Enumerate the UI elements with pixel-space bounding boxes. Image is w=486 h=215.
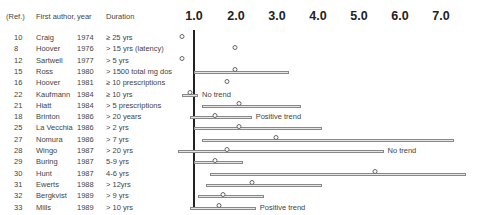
confidence-interval-bar — [194, 161, 243, 164]
point-estimate-marker — [274, 135, 279, 140]
tick-6: 6.0 — [391, 9, 408, 23]
point-estimate-marker — [179, 56, 184, 61]
author-cell: La Vecchia — [36, 122, 73, 133]
ref-cell: 31 — [14, 179, 22, 190]
point-estimate-marker — [212, 158, 217, 163]
point-estimate-marker — [373, 169, 378, 174]
trend-note: Positive trend — [256, 112, 301, 121]
author-cell: Nomura — [36, 134, 63, 145]
author-cell: Hoover — [36, 43, 60, 54]
year-cell: 1974 — [77, 32, 94, 43]
ref-cell: 33 — [14, 202, 22, 213]
duration-cell: > 1500 total mg dos — [106, 66, 172, 77]
ref-cell: 30 — [14, 168, 22, 179]
author-cell: Hunt — [36, 168, 52, 179]
point-estimate-marker — [187, 90, 192, 95]
author-cell: Buring — [36, 156, 58, 167]
table-row: 18Brinton1986> 20 yearsPositive trend — [0, 111, 486, 122]
table-row: 32Bergkvist1989> 9 yrs — [0, 190, 486, 201]
header-ref: (Ref.) — [6, 12, 25, 21]
confidence-interval-bar — [198, 195, 264, 198]
point-estimate-marker — [237, 101, 242, 106]
ref-cell: 8 — [14, 43, 18, 54]
ref-cell: 10 — [14, 32, 22, 43]
table-row: 22Kaufmann1984≥ 10 yrsNo trend — [0, 89, 486, 100]
table-row: 21Hiatt1984> 5 prescriptions — [0, 100, 486, 111]
confidence-interval-bar — [202, 105, 301, 108]
point-estimate-marker — [216, 203, 221, 208]
table-row: 8Hoover1976> 15 yrs (latency) — [0, 43, 486, 54]
table-row: 12Sartwell1977> 5 yrs — [0, 55, 486, 66]
table-row: 15Ross1980> 1500 total mg dos — [0, 66, 486, 77]
year-cell: 1986 — [77, 122, 94, 133]
ref-cell: 27 — [14, 134, 22, 145]
year-cell: 1987 — [77, 145, 94, 156]
duration-cell: > 5 yrs — [106, 55, 129, 66]
author-cell: Sartwell — [36, 55, 63, 66]
duration-cell: > 9 yrs — [106, 190, 129, 201]
confidence-interval-bar — [194, 71, 289, 74]
table-row: 28Wingo1987> 20 yrsNo trend — [0, 145, 486, 156]
duration-cell: > 7 yrs — [106, 134, 129, 145]
ref-cell: 22 — [14, 89, 22, 100]
year-cell: 1976 — [77, 43, 94, 54]
trend-note: No trend — [388, 146, 417, 155]
ref-cell: 16 — [14, 77, 22, 88]
tick-3: 3.0 — [268, 9, 285, 23]
tick-1: 1.0 — [185, 9, 202, 23]
duration-cell: 4-6 yrs — [106, 168, 129, 179]
tick-5: 5.0 — [350, 9, 367, 23]
author-cell: Ewerts — [36, 179, 59, 190]
duration-cell: > 12yrs — [106, 179, 131, 190]
duration-cell: > 15 yrs (latency) — [106, 43, 164, 54]
table-row: 33Mills1989> 10 yrsPositive trend — [0, 202, 486, 213]
tick-2: 2.0 — [227, 9, 244, 23]
ref-cell: 21 — [14, 100, 22, 111]
year-cell: 1987 — [77, 168, 94, 179]
author-cell: Hoover — [36, 77, 60, 88]
table-row: 31Ewerts1988> 12yrs — [0, 179, 486, 190]
header-duration: Duration — [106, 12, 134, 21]
confidence-interval-bar — [210, 173, 465, 176]
author-cell: Kaufmann — [36, 89, 70, 100]
duration-cell: > 20 years — [106, 111, 141, 122]
duration-cell: > 5 prescriptions — [106, 100, 161, 111]
table-row: 10Craig1974≥ 25 yrs — [0, 32, 486, 43]
header-year: year — [77, 12, 92, 21]
trend-note: No trend — [202, 90, 231, 99]
year-cell: 1989 — [77, 190, 94, 201]
duration-cell: ≥ 10 prescriptions — [106, 77, 165, 88]
point-estimate-marker — [179, 34, 184, 39]
tick-4: 4.0 — [309, 9, 326, 23]
table-row: 30Hunt19874-6 yrs — [0, 168, 486, 179]
point-estimate-marker — [212, 113, 217, 118]
ref-cell: 18 — [14, 111, 22, 122]
confidence-interval-bar — [202, 139, 453, 142]
author-cell: Ross — [36, 66, 53, 77]
point-estimate-marker — [224, 147, 229, 152]
confidence-interval-bar — [190, 116, 252, 119]
ref-cell: 29 — [14, 156, 22, 167]
ref-cell: 15 — [14, 66, 22, 77]
year-cell: 1986 — [77, 111, 94, 122]
duration-cell: 5-9 yrs — [106, 156, 129, 167]
ref-cell: 12 — [14, 55, 22, 66]
year-cell: 1986 — [77, 134, 94, 145]
duration-cell: ≥ 25 yrs — [106, 32, 133, 43]
trend-note: Positive trend — [260, 203, 305, 212]
duration-cell: > 10 yrs — [106, 202, 133, 213]
table-row: 27Nomura1986> 7 yrs — [0, 134, 486, 145]
author-cell: Hiatt — [36, 100, 51, 111]
year-cell: 1984 — [77, 100, 94, 111]
author-cell: Brinton — [36, 111, 60, 122]
tick-7: 7.0 — [432, 9, 449, 23]
confidence-interval-bar — [206, 184, 321, 187]
table-row: 16Hoover1981≥ 10 prescriptions — [0, 77, 486, 88]
year-cell: 1981 — [77, 77, 94, 88]
year-cell: 1977 — [77, 55, 94, 66]
point-estimate-marker — [249, 180, 254, 185]
table-row: 25La Vecchia1986> 2 yrs — [0, 122, 486, 133]
author-cell: Mills — [36, 202, 51, 213]
point-estimate-marker — [233, 67, 238, 72]
ref-cell: 25 — [14, 122, 22, 133]
